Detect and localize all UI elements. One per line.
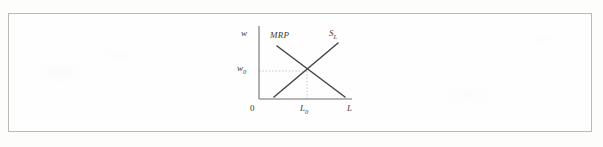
mrp-curve-label: MRP bbox=[270, 31, 289, 40]
equilibrium-wage-label: w0 bbox=[237, 64, 246, 75]
y-axis-label: w bbox=[241, 29, 247, 38]
labor-market-figure bbox=[0, 0, 603, 147]
labor-supply-subscript: L bbox=[334, 33, 338, 40]
document-page: w w0 0 L0 L MRP SL bbox=[0, 0, 603, 147]
equilibrium-quantity-label: L0 bbox=[300, 104, 308, 115]
mrp-curve bbox=[277, 46, 345, 97]
x-axis-label: L bbox=[347, 104, 352, 113]
equilibrium-quantity-subscript: 0 bbox=[305, 108, 308, 115]
origin-label: 0 bbox=[250, 104, 255, 113]
equilibrium-wage-subscript: 0 bbox=[243, 68, 246, 75]
labor-supply-curve-label: SL bbox=[329, 29, 337, 40]
